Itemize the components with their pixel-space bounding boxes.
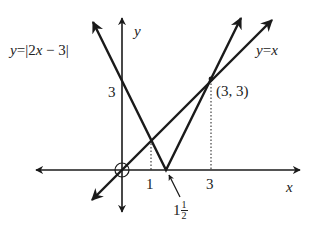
intersection-label: (3, 3) <box>216 84 249 99</box>
vertex-den: 2 <box>181 211 188 221</box>
y-axis-label: y <box>134 24 141 39</box>
x-axis-label: x <box>286 180 293 195</box>
intersection-point <box>209 77 214 82</box>
graph-figure: y=|2x − 3| y=x (3, 3) y x 3 1 3 112 <box>0 0 318 232</box>
vertex-whole: 1 <box>173 202 181 218</box>
x-tick-3: 3 <box>206 177 214 192</box>
identity-line <box>92 20 272 200</box>
vertex-pointer <box>169 175 180 197</box>
y-tick-3: 3 <box>108 85 116 100</box>
abs-curve-label: y=|2x − 3| <box>10 43 69 58</box>
x-tick-1: 1 <box>146 177 154 192</box>
vertex-label: 112 <box>173 200 188 221</box>
graph-canvas <box>0 0 318 232</box>
identity-curve-label: y=x <box>256 43 278 58</box>
